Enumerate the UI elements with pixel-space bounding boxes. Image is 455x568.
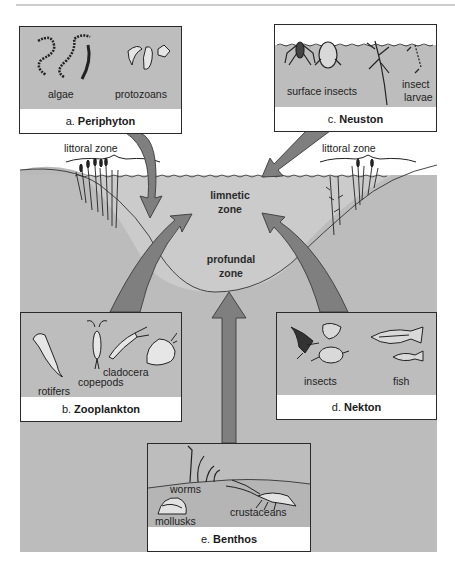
panel-nekton: insects fish d. Nekton [276, 312, 437, 420]
benthos-title-strip: e. Benthos [148, 527, 310, 551]
profundal-zone-label: profundal zone [196, 252, 266, 280]
label-insect: insect [402, 78, 429, 90]
label-protozoans: protozoans [115, 88, 167, 100]
littoral-brace-right [320, 155, 416, 162]
panel-benthos: worms mollusks crustaceans e. Benthos [147, 443, 311, 552]
benthos-letter: e. [201, 533, 210, 545]
panel-zooplankton: cladocera copepods rotifers b. Zooplankt… [20, 312, 182, 422]
nekton-letter: d. [332, 401, 341, 413]
panel-neuston: surface insects insect larvae c. Neuston [274, 24, 437, 132]
limnetic-zone-label: limnetic zone [200, 188, 260, 216]
label-surface-insects: surface insects [287, 85, 357, 97]
nekton-title-strip: d. Nekton [277, 395, 436, 419]
label-insects: insects [304, 375, 337, 387]
littoral-zone-left-label: littoral zone [64, 142, 118, 154]
label-copepods: copepods [78, 376, 124, 388]
neuston-title-strip: c. Neuston [275, 107, 436, 131]
label-rotifers: rotifers [38, 385, 70, 397]
periphyton-title: Periphyton [78, 115, 135, 127]
arrow-neuston [262, 131, 330, 177]
zooplankton-letter: b. [62, 403, 71, 415]
zooplankton-title: Zooplankton [74, 403, 140, 415]
neuston-title: Neuston [339, 113, 383, 125]
benthos-title: Benthos [213, 533, 257, 545]
zooplankton-icon [27, 317, 177, 377]
periphyton-letter: a. [66, 115, 75, 127]
panel-periphyton: algae protozoans a. Periphyton [19, 26, 182, 134]
profundal-line2: zone [196, 266, 266, 280]
label-fish: fish [393, 375, 409, 387]
limnetic-line2: zone [200, 202, 260, 216]
label-algae: algae [48, 88, 74, 100]
label-mollusks: mollusks [155, 515, 196, 527]
label-larvae: larvae [404, 91, 433, 103]
algae-protozoa-icon [30, 31, 170, 91]
littoral-zone-right-label: littoral zone [322, 142, 376, 154]
nekton-icon [283, 317, 433, 371]
limnetic-line1: limnetic [200, 188, 260, 202]
zooplankton-title-strip: b. Zooplankton [21, 397, 181, 421]
neuston-letter: c. [328, 113, 337, 125]
label-worms: worms [170, 483, 201, 495]
profundal-line1: profundal [196, 252, 266, 266]
periphyton-title-strip: a. Periphyton [20, 109, 181, 133]
label-crustaceans: crustaceans [230, 506, 287, 518]
nekton-title: Nekton [344, 401, 381, 413]
